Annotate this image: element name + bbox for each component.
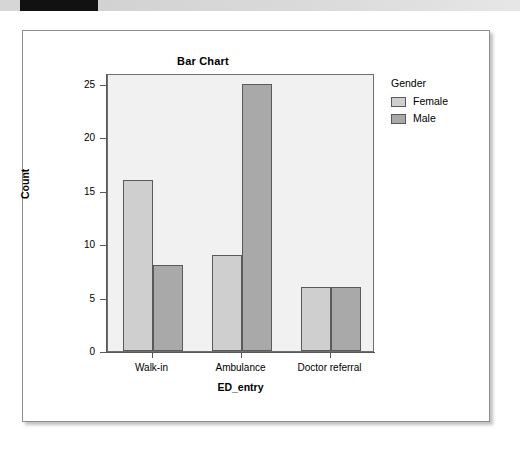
legend-title: Gender [391, 77, 448, 89]
bar-walk-in-female [123, 180, 153, 351]
bars-container [108, 75, 373, 351]
legend-item-male: Male [391, 113, 448, 124]
x-tick-label-doctor-referral: Doctor referral [298, 362, 362, 373]
x-tick-label-ambulance: Ambulance [215, 362, 265, 373]
bar-ambulance-male [242, 84, 272, 351]
legend-item-female: Female [391, 96, 448, 107]
y-tick-label-20: 20 [69, 133, 95, 143]
bar-doctor-referral-male [331, 287, 361, 351]
legend-swatch-male [391, 114, 406, 124]
x-tick-2 [330, 353, 331, 358]
y-tick-5 [100, 299, 106, 300]
bar-walk-in-male [153, 265, 183, 351]
y-tick-label-0: 0 [69, 347, 95, 357]
plot-area [107, 74, 374, 352]
y-tick-label-5: 5 [69, 294, 95, 304]
y-axis-line [106, 74, 107, 353]
y-axis-title: Count [19, 169, 31, 199]
chart-title: Bar Chart [23, 55, 383, 67]
figure-card: Bar Chart 0510152025 Count Walk-inAmbula… [22, 30, 490, 422]
y-tick-25 [100, 85, 106, 86]
y-tick-label-15: 15 [69, 187, 95, 197]
y-tick-label-10: 10 [69, 240, 95, 250]
bar-ambulance-female [212, 255, 242, 351]
x-tick-0 [152, 353, 153, 358]
y-tick-10 [100, 245, 106, 246]
y-tick-label-25: 25 [69, 80, 95, 90]
bar-doctor-referral-female [301, 287, 331, 351]
legend-entries: FemaleMale [391, 96, 448, 124]
black-marker-block [20, 0, 98, 11]
x-tick-label-walk-in: Walk-in [135, 362, 168, 373]
top-banner-strip [0, 0, 520, 11]
y-tick-20 [100, 138, 106, 139]
y-tick-15 [100, 192, 106, 193]
banner-gradient-bar [98, 0, 520, 11]
legend-label-female: Female [413, 96, 448, 107]
legend-label-male: Male [413, 113, 436, 124]
x-axis-title: ED_entry [107, 381, 374, 393]
legend: Gender FemaleMale [391, 77, 448, 130]
legend-swatch-female [391, 97, 406, 107]
x-tick-1 [241, 353, 242, 358]
